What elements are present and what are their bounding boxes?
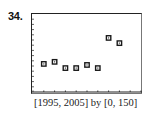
- data-point-center: [97, 67, 98, 68]
- data-points: [42, 36, 122, 71]
- data-point-center: [86, 64, 87, 65]
- y-axis-ticks: [32, 19, 34, 87]
- data-point-center: [65, 67, 66, 68]
- data-point-center: [76, 67, 77, 68]
- data-point-center: [54, 61, 55, 62]
- data-point-center: [108, 37, 109, 38]
- window-range-caption: [1995, 2005] by [0, 150]: [34, 97, 137, 108]
- data-point-center: [43, 63, 44, 64]
- data-point-center: [119, 43, 120, 44]
